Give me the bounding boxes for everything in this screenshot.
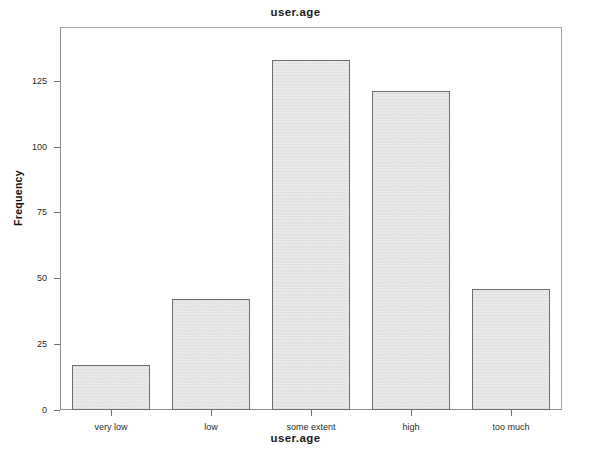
x-axis-tick-label: very low [94, 422, 127, 432]
x-axis-tick-label: high [402, 422, 419, 432]
y-axis-tick-label: 75 [5, 207, 47, 217]
x-axis-tick-mark [211, 410, 212, 416]
y-axis-tick-label: 0 [5, 405, 47, 415]
bar [72, 365, 150, 410]
bars-layer [61, 28, 561, 410]
y-axis: 0255075100125 [0, 0, 60, 454]
bar [372, 91, 450, 410]
x-axis-title: user.age [0, 432, 591, 444]
plot-area [61, 28, 561, 410]
bar-chart-figure: user.age Frequency 0255075100125 very lo… [0, 0, 591, 454]
x-axis-tick-label: some extent [286, 422, 335, 432]
x-axis-tick-label: low [204, 422, 218, 432]
y-axis-tick-label: 50 [5, 273, 47, 283]
bar [472, 289, 550, 410]
y-axis-tick-label: 125 [5, 76, 47, 86]
chart-title: user.age [0, 6, 591, 18]
bar [272, 60, 350, 410]
x-axis-tick-mark [411, 410, 412, 416]
x-axis-tick-mark [111, 410, 112, 416]
y-axis-tick-label: 25 [5, 339, 47, 349]
x-axis-tick-mark [511, 410, 512, 416]
y-axis-tick-mark [54, 410, 60, 411]
x-axis-tick-label: too much [492, 422, 529, 432]
y-axis-tick-label: 100 [5, 142, 47, 152]
x-axis-tick-mark [311, 410, 312, 416]
bar [172, 299, 250, 410]
